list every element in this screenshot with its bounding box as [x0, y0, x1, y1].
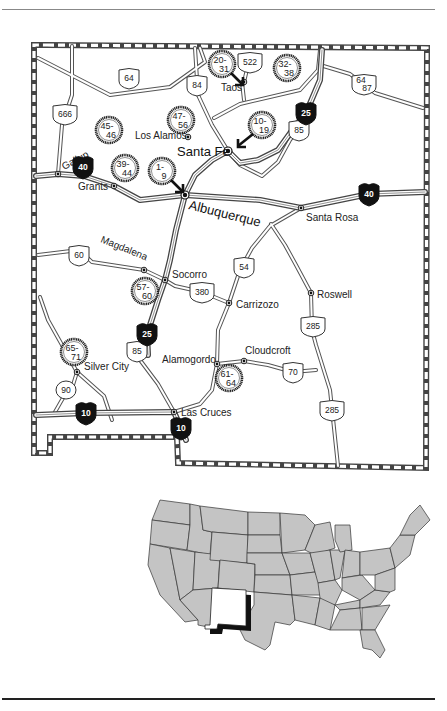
- interstate-shield-icon: 10: [76, 403, 96, 425]
- us-route-shield-icon: 70: [283, 363, 303, 384]
- svg-text:64: 64: [226, 378, 236, 388]
- svg-text:87: 87: [362, 83, 372, 93]
- svg-text:60: 60: [142, 291, 152, 301]
- svg-text:10: 10: [81, 408, 91, 418]
- us-inset-map: [148, 500, 430, 658]
- city-label: Alamogordo: [162, 354, 216, 365]
- svg-text:60: 60: [74, 250, 84, 260]
- city-label: Carrizozo: [236, 299, 279, 310]
- us-route-shield-icon: 285: [320, 401, 344, 422]
- svg-text:64: 64: [124, 73, 134, 83]
- site-marker-61-64[interactable]: 61-64: [216, 365, 242, 391]
- interstate-shield-icon: 25: [296, 103, 316, 125]
- svg-text:522: 522: [243, 57, 257, 67]
- us-route-shield-icon: 522: [238, 53, 262, 74]
- site-marker-10-19[interactable]: 10-19: [238, 112, 275, 147]
- city-las-cruces: Las Cruces: [171, 407, 231, 418]
- svg-text:85: 85: [294, 125, 304, 135]
- svg-text:31: 31: [219, 64, 229, 74]
- site-marker-1-9[interactable]: 1-9: [149, 158, 183, 192]
- city-alamogordo: Alamogordo: [162, 354, 220, 367]
- site-marker-57-60[interactable]: 57-60: [132, 278, 158, 304]
- interstate-shield-icon: 25: [137, 324, 157, 346]
- us-route-shield-icon: 60: [69, 246, 89, 267]
- svg-text:54: 54: [239, 262, 249, 272]
- svg-text:85: 85: [132, 346, 142, 356]
- svg-text:38: 38: [284, 68, 294, 78]
- svg-text:19: 19: [259, 125, 269, 135]
- svg-text:285: 285: [306, 321, 320, 331]
- svg-text:380: 380: [195, 287, 209, 297]
- svg-text:44: 44: [122, 168, 132, 178]
- us-states: [148, 500, 430, 658]
- svg-text:56: 56: [178, 120, 188, 130]
- site-marker-32-38[interactable]: 32-38: [274, 55, 300, 81]
- city-label: Las Cruces: [181, 407, 232, 418]
- svg-text:40: 40: [364, 189, 374, 199]
- new-mexico-map: GallupGrantsLos AlamosTaosSocorroMagdale…: [0, 0, 447, 711]
- svg-text:46: 46: [106, 130, 116, 140]
- roads: [38, 46, 423, 466]
- svg-text:84: 84: [192, 80, 202, 90]
- bottom-rule: [2, 698, 435, 700]
- city-label: Socorro: [172, 269, 207, 280]
- interstate-shield-icon: 40: [73, 157, 93, 179]
- us-route-shield-icon: 6487: [352, 75, 376, 96]
- svg-text:10: 10: [176, 423, 186, 433]
- svg-text:90: 90: [61, 385, 71, 395]
- city-label: Grants: [78, 181, 108, 192]
- svg-text:25: 25: [142, 329, 152, 339]
- us-route-shield-icon: 64: [119, 69, 139, 90]
- major-city-label: Santa Fe: [177, 144, 230, 159]
- svg-text:9: 9: [161, 171, 166, 181]
- svg-text:666: 666: [58, 109, 72, 119]
- city-carrizozo: Carrizozo: [226, 299, 279, 310]
- svg-text:25: 25: [301, 108, 311, 118]
- city-label: Taos: [221, 82, 242, 93]
- us-route-shield-icon: 54: [234, 258, 254, 279]
- site-marker-39-44[interactable]: 39-44: [112, 155, 138, 181]
- svg-text:71: 71: [71, 352, 81, 362]
- city-label: Magdalena: [99, 234, 149, 263]
- svg-text:70: 70: [288, 367, 298, 377]
- interstate-shield-icon: 10: [171, 418, 191, 440]
- us-route-shield-icon: 84: [187, 76, 207, 97]
- site-marker-65-71[interactable]: 65-71: [61, 339, 87, 365]
- us-route-shield-icon: 666: [53, 105, 77, 126]
- city-label: Cloudcroft: [245, 345, 291, 356]
- site-marker-45-46[interactable]: 45-46: [96, 117, 122, 143]
- city-label: Silver City: [84, 361, 129, 372]
- city-roswell: Roswell: [308, 289, 352, 300]
- svg-text:285: 285: [325, 405, 339, 415]
- interstate-shield-icon: 40: [359, 184, 379, 206]
- svg-text:40: 40: [78, 162, 88, 172]
- us-route-shield-icon: 285: [301, 317, 325, 338]
- city-label: Roswell: [317, 289, 352, 300]
- city-santa-fe: Santa Fe: [177, 144, 232, 159]
- site-marker-47-56[interactable]: 47-56: [168, 107, 194, 133]
- city-label: Santa Rosa: [306, 212, 359, 223]
- us-route-shield-icon: 380: [190, 283, 214, 304]
- state-route-shield-icon: 90: [56, 381, 76, 399]
